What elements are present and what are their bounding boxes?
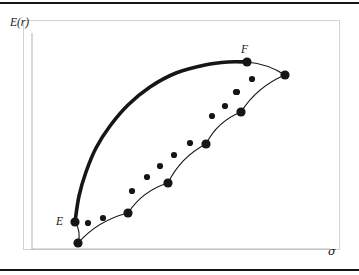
satellite-dots [187, 140, 193, 146]
marker-layer [70, 57, 289, 247]
plot-canvas [0, 0, 359, 275]
chain-nodes [70, 217, 79, 226]
satellite-dots [222, 103, 228, 109]
chain-nodes [242, 57, 251, 66]
chain-nodes [201, 139, 210, 148]
satellite-dots [209, 113, 215, 119]
satellite-dots [157, 163, 163, 169]
scalloped-chain [78, 75, 285, 243]
envelope-curve [75, 62, 247, 222]
satellite-dots [249, 76, 255, 82]
satellite-dots [171, 152, 177, 158]
point-label-e: E [56, 216, 63, 228]
satellite-dots [144, 174, 150, 180]
chain-nodes [236, 107, 245, 116]
satellite-dots [100, 215, 106, 221]
chain-nodes [73, 238, 82, 247]
satellite-dots [233, 89, 239, 95]
y-axis-label: E(r) [10, 17, 29, 29]
x-axis-label: σ [328, 246, 336, 258]
chain-nodes [163, 178, 172, 187]
point-label-f: F [241, 44, 248, 56]
tangent-stub-at-F [247, 62, 285, 75]
satellite-dots [129, 188, 135, 194]
series-layer [75, 62, 285, 243]
satellite-dots [85, 220, 91, 226]
figure-root: E(r) σ E F [0, 0, 359, 275]
chain-nodes [123, 208, 132, 217]
chain-nodes [280, 70, 289, 79]
